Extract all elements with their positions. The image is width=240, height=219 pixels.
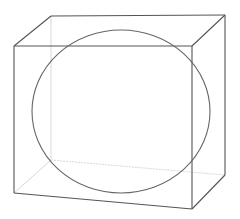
edge-top-left-depth — [14, 16, 51, 46]
diagram-canvas — [0, 0, 240, 219]
edge-top-right-depth — [192, 15, 225, 46]
edge-bottom-right-depth — [192, 175, 225, 209]
sphere-outline — [32, 30, 210, 193]
visible-edges — [14, 15, 225, 209]
edge-back-top — [51, 15, 225, 16]
hidden-edges — [14, 16, 225, 193]
hidden-edge-back-bottom — [51, 160, 225, 175]
box-sphere-diagram — [0, 0, 240, 219]
edge-front-bottom — [14, 193, 192, 209]
hidden-edge-bottom-left-depth — [14, 160, 51, 193]
